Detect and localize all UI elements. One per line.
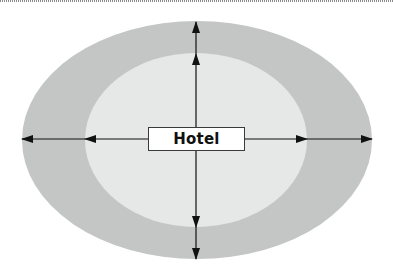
hotel-label-box: Hotel — [148, 127, 245, 151]
hotel-label: Hotel — [173, 130, 219, 148]
